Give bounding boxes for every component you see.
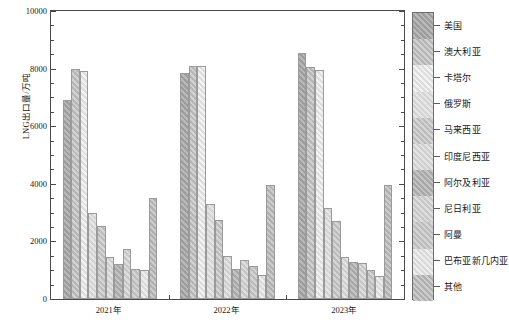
y-axis-tick-label: 2000 — [30, 236, 47, 246]
legend-leader-line-icon — [434, 77, 440, 78]
bar-2022年-其他 — [266, 185, 275, 299]
y-axis-tick-major-right — [399, 299, 404, 300]
legend-item-马来西亚[interactable]: 马来西亚 — [434, 117, 481, 143]
y-axis-tick-minor — [51, 227, 54, 228]
bar-2022年-俄罗斯 — [206, 204, 215, 299]
y-axis-tick-minor — [51, 213, 54, 214]
y-axis-tick-label: 10000 — [26, 6, 47, 16]
y-axis-tick-major — [51, 11, 56, 12]
legend-label: 阿曼 — [444, 228, 462, 241]
bar-2021年-巴布亚新几内亚 — [140, 270, 149, 299]
y-axis-tick-minor — [51, 40, 54, 41]
x-axis-tick-label: 2023年 — [331, 303, 357, 315]
y-axis-tick-minor-right — [401, 83, 404, 84]
y-axis-tick-minor-right — [401, 256, 404, 257]
legend-swatch-俄罗斯[interactable] — [413, 92, 433, 118]
y-axis-tick-minor-right — [401, 270, 404, 271]
y-axis-tick-minor — [51, 25, 54, 26]
y-axis-tick-major-right — [399, 126, 404, 127]
legend-label: 巴布亚新几内亚 — [444, 254, 508, 267]
legend-item-巴布亚新几内亚[interactable]: 巴布亚新几内亚 — [434, 248, 508, 274]
x-axis-tick — [169, 295, 170, 299]
y-axis-tick-major-right — [399, 69, 404, 70]
y-axis-tick-minor-right — [401, 54, 404, 55]
bar-2023年-印度尼西亚 — [341, 257, 350, 299]
y-axis-tick-major-right — [399, 11, 404, 12]
x-axis-tick-label: 2021年 — [96, 303, 122, 315]
legend-item-卡塔尔[interactable]: 卡塔尔 — [434, 64, 472, 90]
legend-swatch-马来西亚[interactable] — [413, 118, 433, 144]
bar-2023年-其他 — [384, 185, 393, 299]
bar-2022年-卡塔尔 — [197, 66, 206, 299]
bar-2022年-印度尼西亚 — [223, 256, 232, 299]
y-axis-tick-minor — [51, 97, 54, 98]
bar-2022年-澳大利亚 — [189, 66, 198, 299]
x-axis-tick — [286, 295, 287, 299]
legend-swatch-尼日利亚[interactable] — [413, 196, 433, 222]
bar-2021年-其他 — [149, 198, 158, 299]
legend-leader-line-icon — [434, 25, 440, 26]
bar-2021年-阿尔及利亚 — [114, 264, 123, 299]
y-axis-tick-minor — [51, 198, 54, 199]
legend-label: 俄罗斯 — [444, 97, 472, 110]
bar-2023年-马来西亚 — [332, 221, 341, 299]
legend-item-阿尔及利亚[interactable]: 阿尔及利亚 — [434, 169, 490, 195]
legend-leader-line-icon — [434, 182, 440, 183]
legend-item-尼日利亚[interactable]: 尼日利亚 — [434, 195, 481, 221]
legend-item-美国[interactable]: 美国 — [434, 12, 462, 38]
y-axis-tick-minor — [51, 112, 54, 113]
bar-2023年-澳大利亚 — [306, 67, 315, 299]
y-axis-tick-label: 4000 — [30, 179, 47, 189]
legend-leader-line-icon — [434, 234, 440, 235]
y-axis-tick-minor — [51, 155, 54, 156]
chart-legend: 美国澳大利亚卡塔尔俄罗斯马来西亚印度尼西亚阿尔及利亚尼日利亚阿曼巴布亚新几内亚其… — [412, 12, 507, 312]
bar-2023年-俄罗斯 — [324, 208, 333, 299]
legend-label: 美国 — [444, 19, 462, 32]
y-axis-tick-minor-right — [401, 169, 404, 170]
legend-label: 马来西亚 — [444, 123, 481, 136]
legend-item-澳大利亚[interactable]: 澳大利亚 — [434, 38, 481, 64]
y-axis-tick-label: 6000 — [30, 121, 47, 131]
legend-swatch-巴布亚新几内亚[interactable] — [413, 249, 433, 275]
y-axis-tick-minor — [51, 169, 54, 170]
legend-leader-line-icon — [434, 51, 440, 52]
y-axis-tick-minor-right — [401, 25, 404, 26]
legend-item-阿曼[interactable]: 阿曼 — [434, 221, 462, 247]
legend-swatch-阿尔及利亚[interactable] — [413, 170, 433, 196]
legend-label: 印度尼西亚 — [444, 150, 490, 163]
bar-2021年-阿曼 — [131, 269, 140, 299]
bar-2023年-卡塔尔 — [315, 70, 324, 299]
bar-2023年-巴布亚新几内亚 — [375, 276, 384, 299]
y-axis-tick-minor-right — [401, 227, 404, 228]
legend-leader-line-icon — [434, 286, 440, 287]
bar-2022年-尼日利亚 — [240, 260, 249, 299]
y-axis-tick-major-right — [399, 184, 404, 185]
legend-label: 阿尔及利亚 — [444, 176, 490, 189]
legend-swatch-column — [412, 12, 434, 300]
bar-2023年-美国 — [298, 53, 307, 299]
legend-item-其他[interactable]: 其他 — [434, 274, 462, 300]
legend-swatch-澳大利亚[interactable] — [413, 39, 433, 65]
legend-swatch-印度尼西亚[interactable] — [413, 144, 433, 170]
legend-item-俄罗斯[interactable]: 俄罗斯 — [434, 91, 472, 117]
legend-swatch-阿曼[interactable] — [413, 222, 433, 248]
plot-inner: 0200040006000800010000 — [51, 11, 404, 299]
bar-2023年-阿曼 — [367, 270, 376, 299]
y-axis-tick-major — [51, 126, 56, 127]
y-axis-tick-major — [51, 241, 56, 242]
legend-item-印度尼西亚[interactable]: 印度尼西亚 — [434, 143, 490, 169]
y-axis-tick-minor-right — [401, 141, 404, 142]
y-axis-tick-major — [51, 299, 56, 300]
bar-2021年-尼日利亚 — [123, 249, 132, 299]
bar-2021年-俄罗斯 — [88, 213, 97, 299]
legend-swatch-美国[interactable] — [413, 13, 433, 39]
legend-swatch-卡塔尔[interactable] — [413, 65, 433, 91]
legend-swatch-其他[interactable] — [413, 275, 433, 301]
y-axis-tick-minor — [51, 141, 54, 142]
bar-2021年-卡塔尔 — [80, 71, 89, 299]
y-axis-tick-minor — [51, 256, 54, 257]
bar-2023年-阿尔及利亚 — [349, 262, 358, 299]
legend-label: 卡塔尔 — [444, 71, 472, 84]
x-axis-tick-label: 2022年 — [214, 303, 240, 315]
y-axis-tick-minor — [51, 285, 54, 286]
